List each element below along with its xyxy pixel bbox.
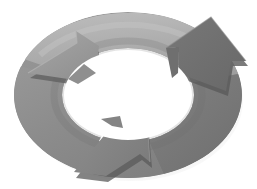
cycle-diagram-svg: Three-stage circular cycle arrow diagram [0,0,257,189]
cycle-diagram-canvas: Three-stage circular cycle arrow diagram [0,0,257,189]
